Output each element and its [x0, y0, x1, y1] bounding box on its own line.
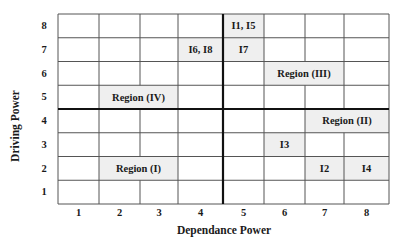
- y-tick-5: 5: [41, 91, 46, 102]
- y-tick-4: 4: [41, 115, 47, 126]
- region-ii-label: Region (II): [322, 115, 372, 127]
- x-axis-label: Dependance Power: [177, 224, 271, 237]
- y-tick-2: 2: [41, 163, 46, 174]
- y-tick-3: 3: [41, 139, 46, 150]
- x-tick-4: 4: [198, 207, 204, 218]
- point-i6-i8-label: I6, I8: [189, 44, 213, 55]
- x-tick-7: 7: [322, 207, 327, 218]
- point-i1-i5-label: I1, I5: [232, 20, 256, 31]
- point-i4-label: I4: [362, 163, 372, 174]
- x-tick-3: 3: [156, 207, 161, 218]
- y-tick-8: 8: [41, 20, 46, 31]
- x-tick-2: 2: [117, 207, 122, 218]
- y-tick-1: 1: [41, 186, 46, 197]
- region-iv-label: Region (IV): [112, 92, 165, 104]
- x-tick-1: 1: [76, 207, 81, 218]
- micmac-chart: Region (IV) Region (III) Region (II) Reg…: [0, 0, 402, 242]
- x-tick-5: 5: [241, 207, 246, 218]
- region-iii-label: Region (III): [277, 68, 331, 80]
- point-i3-label: I3: [280, 139, 289, 150]
- x-tick-8: 8: [364, 207, 369, 218]
- y-axis-label: Driving Power: [9, 90, 22, 162]
- x-tick-6: 6: [282, 207, 287, 218]
- y-tick-7: 7: [41, 44, 46, 55]
- point-i7-label: I7: [239, 44, 248, 55]
- point-i2-label: I2: [320, 163, 329, 174]
- y-tick-6: 6: [41, 68, 46, 79]
- x-axis-ticks: 1 2 3 4 5 6 7 8: [76, 207, 369, 218]
- region-i-label: Region (I): [116, 163, 162, 175]
- y-axis-ticks: 8 7 6 5 4 3 2 1: [41, 20, 47, 197]
- cell-labels: Region (IV) Region (III) Region (II) Reg…: [112, 20, 372, 175]
